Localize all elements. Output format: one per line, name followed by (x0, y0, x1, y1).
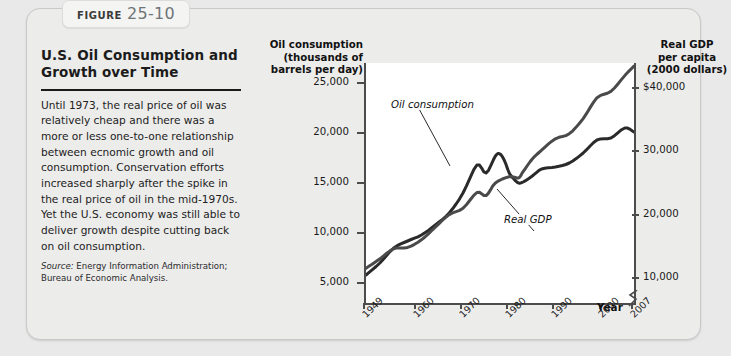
figure-badge-word: Figure (77, 10, 122, 21)
y-tick-mark-right (632, 87, 639, 89)
figure-number-badge: Figure25-10 (62, 0, 190, 28)
page-title: U.S. Oil Consumption and Growth over Tim… (41, 47, 241, 82)
y-tick-label-left: 5,000 (287, 276, 349, 287)
y-tick-mark-left (357, 182, 364, 184)
y-tick-mark-left (357, 282, 364, 284)
oil-consumption-label: Oil consumption (389, 99, 476, 110)
y-tick-mark-left (357, 232, 364, 234)
y-tick-label-left: 10,000 (287, 226, 349, 237)
y-tick-label-left: 25,000 (287, 76, 349, 87)
chart: Oil consumption (thousands of barrels pe… (249, 39, 689, 334)
y-tick-label-left: 15,000 (287, 176, 349, 187)
y-axis-title-left: Oil consumption (thousands of barrels pe… (241, 39, 363, 77)
y-tick-mark-right (632, 277, 639, 279)
real-gdp-line (366, 66, 634, 268)
y-tick-mark-right (632, 150, 639, 152)
y-tick-mark-right (632, 214, 639, 216)
y-tick-mark-left (357, 132, 364, 134)
figure-description: Until 1973, the real price of oil was re… (41, 98, 241, 255)
y-axis-title-right: Real GDP per capita (2000 dollars) (637, 39, 731, 77)
figure-text-panel: U.S. Oil Consumption and Growth over Tim… (41, 47, 241, 284)
oil-label-leader-line (418, 107, 450, 166)
source-label: Source: (41, 261, 74, 271)
oil-consumption-line (366, 128, 634, 275)
x-axis-title: Year (597, 301, 623, 313)
title-divider (41, 89, 241, 91)
y-tick-label-left: 20,000 (287, 126, 349, 137)
y-tick-label-right: 30,000 (643, 144, 679, 155)
figure-card: Figure25-10 U.S. Oil Consumption and Gro… (26, 8, 701, 340)
y-tick-label-right: $40,000 (643, 81, 685, 92)
y-tick-label-right: 10,000 (643, 271, 679, 282)
figure-source: Source: Energy Information Administratio… (41, 261, 241, 284)
real-gdp-label: Real GDP (502, 214, 554, 225)
y-tick-label-right: 20,000 (643, 208, 679, 219)
y-tick-mark-left (357, 82, 364, 84)
figure-badge-number: 25-10 (127, 4, 175, 23)
axis-break-mark (627, 290, 643, 308)
